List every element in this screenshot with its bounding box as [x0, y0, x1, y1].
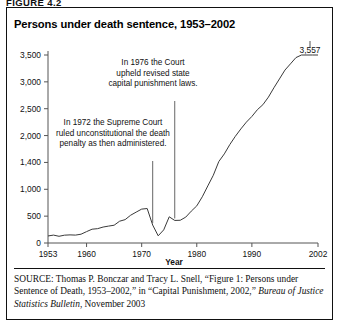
svg-text:1960: 1960	[77, 249, 96, 259]
svg-text:3,000: 3,000	[20, 77, 41, 87]
annotation-1976-line: capital punishment laws.	[108, 79, 197, 88]
svg-text:0: 0	[36, 238, 41, 248]
annotation-group: In 1976 the Courtupheld revised statecap…	[56, 58, 198, 223]
annotation-1972-line: ruled unconstitutional the death	[56, 129, 170, 138]
source-text-first: : Thomas P. Bonczar and Tracy L. Snell, …	[14, 274, 298, 296]
svg-text:3,500: 3,500	[20, 50, 41, 60]
x-axis-label: Year	[165, 257, 183, 267]
svg-text:1990: 1990	[243, 249, 262, 259]
svg-text:2,500: 2,500	[20, 104, 41, 114]
annotation-1972-line: penalty as then administered.	[60, 139, 167, 148]
annotation-1976-line: In 1976 the Court	[121, 58, 185, 67]
svg-text:1970: 1970	[132, 249, 151, 259]
svg-text:1980: 1980	[187, 249, 206, 259]
svg-text:1,400: 1,400	[20, 157, 41, 167]
source-caption: SOURCE: Thomas P. Bonczar and Tracy L. S…	[14, 273, 326, 310]
caption-divider	[14, 268, 325, 269]
x-axis-ticks: 195319601970198019902002	[39, 243, 328, 259]
svg-text:2002: 2002	[309, 249, 328, 259]
source-prefix: SOURCE	[14, 274, 51, 284]
svg-text:1953: 1953	[39, 249, 58, 259]
annotation-1976-line: upheld revised state	[116, 69, 190, 78]
svg-text:500: 500	[27, 211, 41, 221]
y-axis-ticks: 05001,0001,4002,0002,5003,0003,500	[20, 50, 48, 248]
svg-text:1,000: 1,000	[20, 184, 41, 194]
source-text-last: , November 2003	[80, 299, 145, 309]
annotation-1972-line: In 1972 the Supreme Court	[64, 118, 163, 127]
svg-text:2,000: 2,000	[20, 131, 41, 141]
peak-value-label: 3,557	[300, 45, 321, 55]
